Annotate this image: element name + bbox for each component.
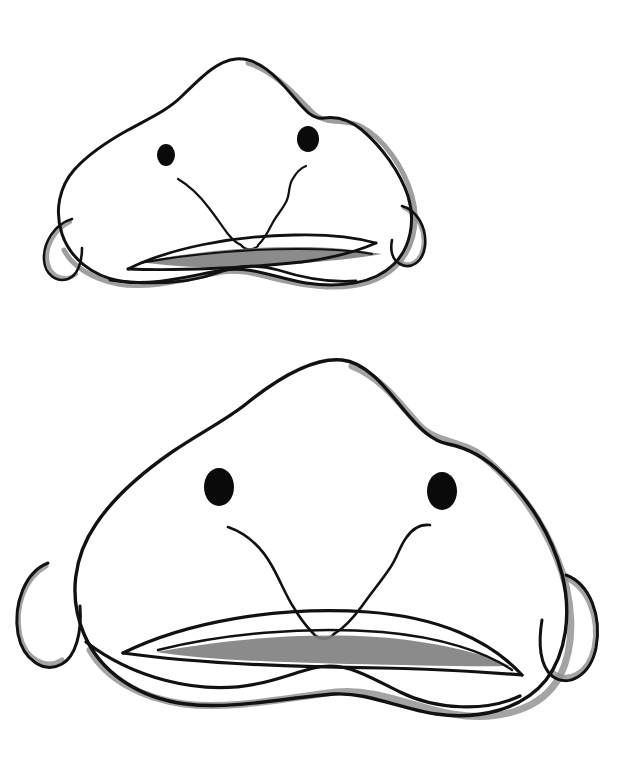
blobfish-artboard <box>0 0 638 768</box>
right-eye-dot-icon-small <box>297 126 319 152</box>
left-eye-dot-icon-small <box>157 144 175 166</box>
left-eye-dot-icon-large <box>204 468 234 506</box>
coloring-page: Blobfish Face Coloring Page Blobfish fac… <box>0 0 638 768</box>
right-eye-dot-icon-large <box>427 472 457 510</box>
